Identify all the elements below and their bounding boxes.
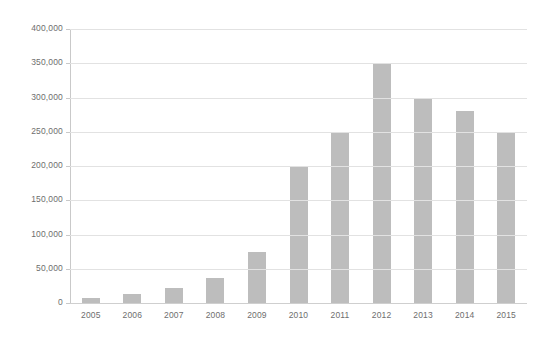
y-axis-tick-label: 300,000 — [1, 92, 63, 102]
y-axis-tick-label: 150,000 — [1, 194, 63, 204]
bar-2011 — [331, 132, 349, 303]
bar-2006 — [123, 294, 141, 303]
x-axis-tick-label: 2015 — [486, 310, 526, 320]
y-axis-tick-label: 0 — [1, 297, 63, 307]
x-axis-tick-label: 2010 — [279, 310, 319, 320]
x-axis-tick-label: 2005 — [71, 310, 111, 320]
plot-area — [70, 29, 527, 303]
x-axis-tick-label: 2006 — [112, 310, 152, 320]
gridline — [70, 166, 527, 167]
y-axis-tick — [66, 29, 70, 30]
y-axis-tick — [66, 166, 70, 167]
y-axis-labels: 050,000100,000150,000200,000250,000300,0… — [0, 0, 63, 337]
bar-2015 — [497, 132, 515, 303]
y-axis-tick — [66, 235, 70, 236]
gridline — [70, 63, 527, 64]
bar-2014 — [456, 111, 474, 303]
y-axis-tick-label: 200,000 — [1, 160, 63, 170]
x-axis-tick-label: 2012 — [362, 310, 402, 320]
x-axis-tick-label: 2011 — [320, 310, 360, 320]
x-axis-tick-label: 2008 — [195, 310, 235, 320]
x-axis-tick-label: 2009 — [237, 310, 277, 320]
gridline — [70, 269, 527, 270]
y-axis-tick-label: 400,000 — [1, 23, 63, 33]
y-axis-tick — [66, 303, 70, 304]
y-axis-tick — [66, 269, 70, 270]
y-axis-tick — [66, 63, 70, 64]
bar-2008 — [206, 278, 224, 303]
x-axis-tick-label: 2007 — [154, 310, 194, 320]
bar-2009 — [248, 252, 266, 303]
gridline — [70, 303, 527, 304]
y-axis-tick — [66, 98, 70, 99]
y-axis-tick — [66, 200, 70, 201]
y-axis-tick-label: 50,000 — [1, 263, 63, 273]
gridline — [70, 235, 527, 236]
y-axis-tick — [66, 132, 70, 133]
gridline — [70, 200, 527, 201]
y-axis-tick-label: 250,000 — [1, 126, 63, 136]
y-axis-tick-label: 100,000 — [1, 229, 63, 239]
gridline — [70, 98, 527, 99]
bar-2007 — [165, 288, 183, 303]
y-axis-tick-label: 350,000 — [1, 57, 63, 67]
x-axis-tick-label: 2014 — [445, 310, 485, 320]
bar-2012 — [373, 63, 391, 303]
bar-chart: 050,000100,000150,000200,000250,000300,0… — [0, 0, 554, 337]
x-axis-tick-label: 2013 — [403, 310, 443, 320]
gridline — [70, 29, 527, 30]
gridline — [70, 132, 527, 133]
